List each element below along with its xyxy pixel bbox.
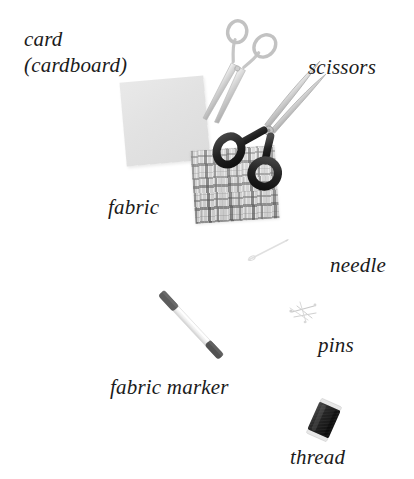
fabric-marker-icon: [158, 290, 224, 360]
label-card: card: [24, 28, 63, 51]
label-thread: thread: [290, 446, 345, 469]
label-needle: needle: [330, 254, 386, 277]
label-fabric: fabric: [108, 196, 159, 219]
label-scissors: scissors: [308, 56, 376, 79]
fabric-swatch: [191, 145, 280, 224]
label-fabric-marker: fabric marker: [110, 376, 229, 399]
thread-spool-icon: [306, 398, 342, 442]
pins-icon: [289, 302, 316, 323]
label-pins: pins: [318, 334, 354, 357]
needle-icon: [248, 237, 291, 261]
illustration-canvas: card (cardboard) scissors fabric needle …: [0, 0, 414, 479]
label-cardboard: (cardboard): [24, 54, 127, 77]
